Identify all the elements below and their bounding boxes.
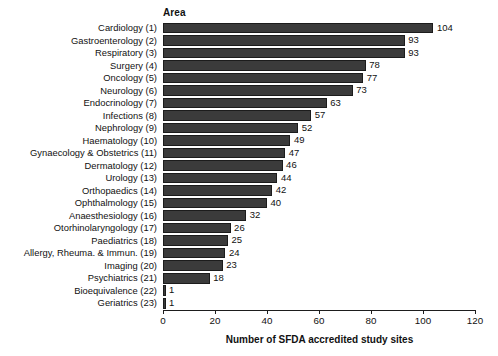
bar[interactable]: [163, 273, 210, 284]
bar-row: 25: [163, 235, 475, 248]
bar-value-label: 47: [289, 147, 300, 159]
bar-row: 49: [163, 135, 475, 148]
bar-value-label: 23: [226, 259, 237, 271]
bar-value-label: 93: [408, 47, 419, 59]
plot-area: 1049393787773635752494746444240322625242…: [163, 22, 475, 310]
x-tick-label: 60: [314, 315, 325, 326]
bar[interactable]: [163, 73, 363, 84]
bar[interactable]: [163, 98, 327, 109]
bar-row: 63: [163, 97, 475, 110]
bar-row: 1: [163, 297, 475, 310]
category-label: Paediatrics (18): [0, 235, 159, 248]
bar[interactable]: [163, 123, 298, 134]
x-axis-title: Number of SFDA accredited study sites: [163, 334, 476, 345]
bar-row: 77: [163, 72, 475, 85]
bar-chart: Area Cardiology (1)Gastroenterology (2)R…: [0, 0, 498, 356]
bar-row: 24: [163, 247, 475, 260]
bar[interactable]: [163, 260, 223, 271]
bar-row: 78: [163, 60, 475, 73]
category-label: Nephrology (9): [0, 122, 159, 135]
bar-value-label: 42: [276, 184, 287, 196]
category-label: Gynaecology & Obstetrics (11): [0, 147, 159, 160]
bar-value-label: 77: [367, 72, 378, 84]
bar-row: 104: [163, 22, 475, 35]
category-label: Bioequivalence (22): [0, 285, 159, 298]
category-label: Anaesthesiology (16): [0, 210, 159, 223]
bar[interactable]: [163, 223, 231, 234]
bar-value-label: 104: [437, 22, 453, 34]
bar[interactable]: [163, 23, 433, 34]
category-label: Ophthalmology (15): [0, 197, 159, 210]
bar-value-label: 24: [229, 247, 240, 259]
bar[interactable]: [163, 135, 290, 146]
bar-row: 26: [163, 222, 475, 235]
category-label: Allergy, Rheuma. & Immun. (19): [0, 247, 159, 260]
bar[interactable]: [163, 173, 277, 184]
category-label: Otorhinolaryngology (17): [0, 222, 159, 235]
x-tick-label: 120: [467, 315, 483, 326]
bar-value-label: 1: [169, 284, 174, 296]
x-tick-label: 40: [262, 315, 273, 326]
bar-row: 93: [163, 35, 475, 48]
x-tick: [423, 310, 424, 314]
bar-value-label: 78: [369, 59, 380, 71]
bar[interactable]: [163, 160, 283, 171]
category-label: Cardiology (1): [0, 22, 159, 35]
x-tick: [319, 310, 320, 314]
category-label: Orthopaedics (14): [0, 185, 159, 198]
category-label: Haematology (10): [0, 135, 159, 148]
category-label: Endocrinology (7): [0, 97, 159, 110]
bar-value-label: 18: [213, 272, 224, 284]
bar-row: 73: [163, 85, 475, 98]
bar-row: 93: [163, 47, 475, 60]
category-label: Gastroenterology (2): [0, 35, 159, 48]
category-label: Dermatology (12): [0, 160, 159, 173]
x-tick-label: 80: [366, 315, 377, 326]
bar-row: 42: [163, 185, 475, 198]
bar[interactable]: [163, 185, 272, 196]
bar-row: 32: [163, 210, 475, 223]
bar-value-label: 44: [281, 172, 292, 184]
bar-rows: 1049393787773635752494746444240322625242…: [163, 22, 475, 310]
bar[interactable]: [163, 35, 405, 46]
bar-value-label: 49: [294, 134, 305, 146]
bar[interactable]: [163, 235, 228, 246]
group-header: Area: [163, 7, 186, 18]
bar-value-label: 73: [356, 84, 367, 96]
category-label: Urology (13): [0, 172, 159, 185]
category-label: Infections (8): [0, 110, 159, 123]
bar-value-label: 32: [250, 209, 261, 221]
bar[interactable]: [163, 85, 353, 96]
category-label: Surgery (4): [0, 60, 159, 73]
category-label: Imaging (20): [0, 260, 159, 273]
bar[interactable]: [163, 298, 166, 309]
bar-row: 57: [163, 110, 475, 123]
bar[interactable]: [163, 48, 405, 59]
bar[interactable]: [163, 148, 285, 159]
x-tick: [215, 310, 216, 314]
category-axis-labels: Cardiology (1)Gastroenterology (2)Respir…: [0, 22, 159, 310]
bar-value-label: 1: [169, 297, 174, 309]
bar-value-label: 26: [234, 222, 245, 234]
bar[interactable]: [163, 285, 166, 296]
category-label: Oncology (5): [0, 72, 159, 85]
x-tick-label: 100: [415, 315, 431, 326]
bar[interactable]: [163, 60, 366, 71]
x-tick: [267, 310, 268, 314]
bar-value-label: 46: [286, 159, 297, 171]
bar-row: 47: [163, 147, 475, 160]
bar-value-label: 40: [271, 197, 282, 209]
category-label: Neurology (6): [0, 85, 159, 98]
bar-value-label: 63: [330, 97, 341, 109]
x-tick: [475, 310, 476, 314]
bar-row: 46: [163, 160, 475, 173]
x-tick-label: 0: [160, 315, 165, 326]
x-tick-label: 20: [210, 315, 221, 326]
bar[interactable]: [163, 248, 225, 259]
x-tick: [163, 310, 164, 314]
bar-row: 1: [163, 285, 475, 298]
category-label: Respiratory (3): [0, 47, 159, 60]
bar[interactable]: [163, 210, 246, 221]
bar[interactable]: [163, 110, 311, 121]
bar[interactable]: [163, 198, 267, 209]
